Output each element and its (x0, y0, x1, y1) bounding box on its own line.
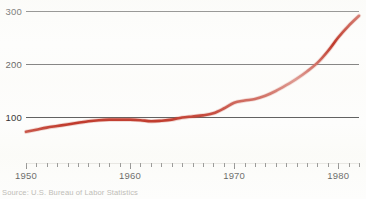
x-major-tick-1980 (338, 163, 339, 169)
x-minor-tick-1978 (317, 163, 318, 167)
x-minor-tick-1979 (328, 163, 329, 167)
x-minor-tick-1975 (286, 163, 287, 167)
plot-area (26, 11, 359, 117)
x-minor-tick-1982 (359, 163, 360, 167)
gridline-200 (26, 64, 359, 65)
x-major-tick-1950 (26, 163, 27, 169)
x-minor-tick-1952 (47, 163, 48, 167)
y-tick-label-200: 200 (6, 60, 22, 70)
x-minor-tick-1951 (36, 163, 37, 167)
line-chart-figure: 100200300 1950196019701980 Source: U.S. … (0, 0, 366, 199)
x-minor-tick-1956 (88, 163, 89, 167)
x-minor-tick-1964 (172, 163, 173, 167)
gridline-100 (26, 117, 359, 118)
x-minor-tick-1971 (245, 163, 246, 167)
y-tick-label-100: 100 (6, 113, 22, 123)
x-minor-tick-1957 (99, 163, 100, 167)
y-axis-labels: 100200300 (0, 0, 22, 130)
x-minor-tick-1955 (78, 163, 79, 167)
x-tick-label-1960: 1960 (119, 171, 141, 181)
x-tick-label-1950: 1950 (15, 171, 37, 181)
x-major-tick-1970 (234, 163, 235, 169)
x-tick-label-1970: 1970 (223, 171, 245, 181)
x-axis-ticks (26, 163, 359, 169)
x-minor-tick-1958 (109, 163, 110, 167)
x-minor-tick-1963 (161, 163, 162, 167)
x-minor-tick-1969 (224, 163, 225, 167)
x-minor-tick-1962 (151, 163, 152, 167)
x-minor-tick-1961 (140, 163, 141, 167)
x-minor-tick-1976 (297, 163, 298, 167)
x-minor-tick-1973 (265, 163, 266, 167)
x-major-tick-1960 (130, 163, 131, 169)
x-minor-tick-1953 (57, 163, 58, 167)
x-minor-tick-1967 (203, 163, 204, 167)
source-note: Source: U.S. Bureau of Labor Statistics (2, 189, 138, 197)
x-minor-tick-1954 (68, 163, 69, 167)
gridline-300 (26, 11, 359, 12)
x-minor-tick-1972 (255, 163, 256, 167)
x-minor-tick-1974 (276, 163, 277, 167)
x-minor-tick-1981 (349, 163, 350, 167)
x-axis-labels: 1950196019701980 (0, 171, 366, 185)
x-minor-tick-1977 (307, 163, 308, 167)
x-minor-tick-1966 (193, 163, 194, 167)
x-minor-tick-1959 (120, 163, 121, 167)
x-minor-tick-1965 (182, 163, 183, 167)
y-tick-label-300: 300 (6, 7, 22, 17)
x-minor-tick-1968 (213, 163, 214, 167)
x-tick-label-1980: 1980 (327, 171, 349, 181)
